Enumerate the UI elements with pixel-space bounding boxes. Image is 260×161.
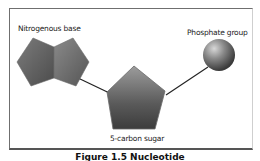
nitrogenous-base-label: Nitrogenous base: [18, 24, 81, 33]
sugar-label: 5-carbon sugar: [110, 134, 164, 143]
sugar-pentagon-shape: [107, 66, 165, 129]
phosphate-group-label: Phosphate group: [187, 28, 248, 37]
bond-sugar-phosphate: [166, 67, 208, 95]
figure-caption: Figure 1.5 Nucleotide: [0, 152, 260, 161]
nitrogenous-base-shape: [17, 38, 89, 86]
phosphate-sphere-shape: [203, 39, 235, 71]
